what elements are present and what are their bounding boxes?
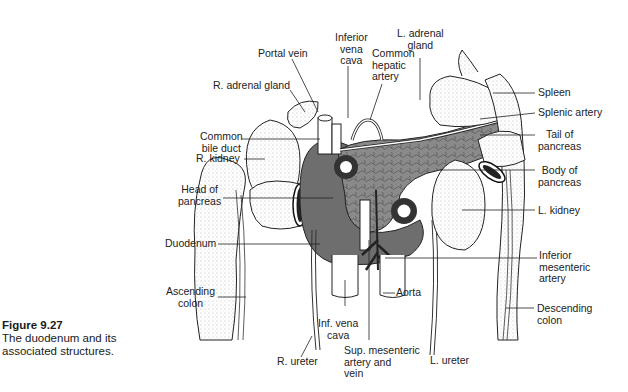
label-sup-mesenteric: Sup. mesenteric artery and vein [344, 345, 420, 380]
r-adrenal-shape [288, 101, 319, 128]
label-portal-vein: Portal vein [258, 48, 308, 60]
figure-number: Figure 9.27 [2, 319, 162, 332]
label-ascending-colon: Ascending colon [166, 286, 215, 309]
label-common-bile-duct: Common bile duct [200, 131, 243, 154]
label-l-ureter: L. ureter [430, 355, 469, 367]
label-r-kidney: R. kidney [196, 153, 240, 165]
label-l-kidney: L. kidney [538, 205, 580, 217]
l-kidney-shape [432, 160, 485, 250]
label-inf-vena-cava: Inf. vena cava [318, 318, 358, 341]
label-duodenum: Duodenum [165, 238, 216, 250]
figure-caption: Figure 9.27 The duodenum and its associa… [2, 319, 162, 358]
label-l-adrenal-gland: L. adrenal gland [397, 28, 444, 51]
label-inferior-mesenteric-artery: Inferior mesenteric artery [539, 250, 590, 285]
ivc-upper-shape [318, 118, 332, 154]
label-aorta: Aorta [396, 287, 421, 299]
label-r-adrenal-gland: R. adrenal gland [213, 80, 290, 92]
figure-caption-text: The duodenum and its associated structur… [2, 332, 162, 358]
label-common-hepatic-artery: Common hepatic artery [372, 48, 415, 83]
label-body-of-pancreas: Body of pancreas [538, 165, 581, 188]
label-descending-colon: Descending colon [537, 303, 592, 326]
label-r-ureter: R. ureter [277, 356, 318, 368]
label-inferior-vena-cava: Inferior vena cava [335, 32, 368, 67]
label-tail-of-pancreas: Tail of pancreas [538, 129, 581, 152]
label-head-of-pancreas: Head of pancreas [178, 184, 221, 207]
label-spleen: Spleen [538, 87, 571, 99]
label-splenic-artery: Splenic artery [538, 107, 602, 119]
